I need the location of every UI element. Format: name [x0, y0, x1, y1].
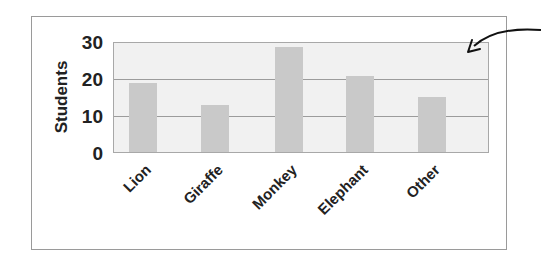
bar-giraffe [201, 105, 229, 152]
bar-other [418, 97, 446, 152]
bar-elephant [346, 76, 374, 152]
y-tick-20: 20 [82, 70, 103, 89]
y-axis-label: Students [52, 61, 72, 134]
arrow-annotation-icon [462, 20, 541, 60]
bar-lion [129, 83, 157, 152]
plot-area [113, 42, 489, 153]
bar-monkey [275, 47, 303, 152]
y-tick-10: 10 [82, 107, 103, 126]
y-tick-0: 0 [92, 144, 103, 163]
y-tick-30: 30 [82, 33, 103, 52]
